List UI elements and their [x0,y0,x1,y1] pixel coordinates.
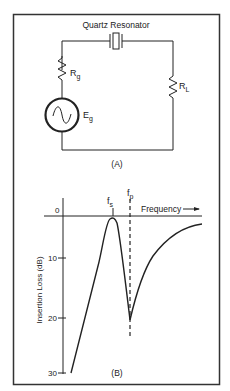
y-tick-label-20: 20 [48,314,57,323]
circuit-diagram [46,33,178,150]
arrow-head-icon [194,207,200,211]
y-tick-label-30: 30 [48,369,57,378]
caption-b: (B) [111,368,123,378]
wire-bottom [62,100,173,150]
y-tick-label-0: 0 [55,206,60,215]
figure-border [14,15,220,385]
sine-wave-icon [53,107,71,123]
fp-label: fp [127,188,134,201]
wire-top-left [62,41,108,70]
rl-label: RL [179,81,190,93]
resonator-label: Quartz Resonator [82,20,149,30]
fs-label: fs [107,196,114,208]
caption-a: (A) [111,159,123,169]
insertion-loss-chart [44,198,202,374]
frequency-label: Frequency [141,204,182,214]
wire-top-right [124,41,173,74]
insertion-loss-curve [71,218,202,373]
y-axis-label: Insertion Loss (dB) [35,256,44,323]
quartz-crystal-icon [108,33,124,49]
rg-label: Rg [70,68,81,81]
y-tick-label-10: 10 [48,254,57,263]
quartz-resonator-figure: Quartz Resonator Rg RL Eg (A) 0 10 20 30… [0,0,230,391]
resistor-rl-icon [169,74,177,100]
eg-label: Eg [83,110,93,123]
